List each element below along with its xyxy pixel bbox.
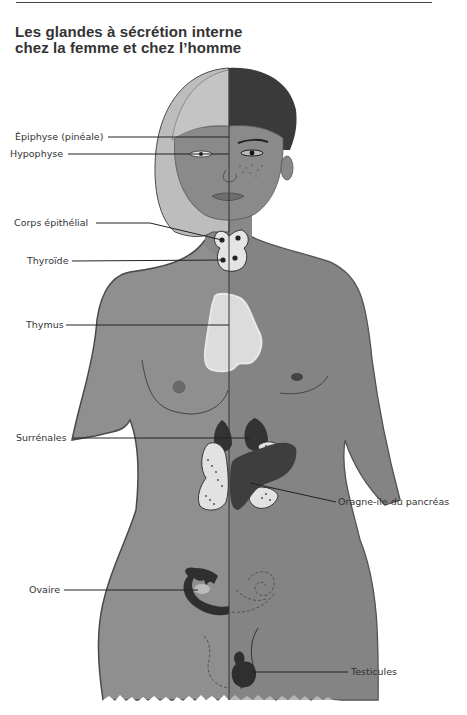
female-nipple: [173, 381, 185, 393]
male-nipple: [291, 373, 303, 381]
label-epiphyse: Épiphyse (pinéale): [15, 131, 103, 143]
parathyroid-dot: [232, 255, 237, 260]
male-ear: [281, 156, 293, 180]
thyroid-gland: [214, 230, 248, 271]
label-corps-epithelial: Corps épithélial: [14, 217, 88, 229]
label-surrenales: Surrénales: [16, 432, 67, 444]
label-hypophyse: Hypophyse: [10, 148, 63, 160]
label-testicules: Testicules: [351, 666, 397, 678]
label-thyroide: Thyroïde: [27, 255, 68, 267]
head: [155, 68, 297, 237]
male-pupil: [250, 151, 255, 156]
label-pancreas: Oragne-ile du pancréas: [338, 496, 449, 508]
ovary-gland: [194, 584, 210, 594]
parathyroid-dot: [235, 235, 240, 240]
label-ovaire: Ovaire: [29, 584, 60, 596]
anatomy-illustration: [0, 0, 467, 715]
label-thymus: Thymus: [26, 319, 64, 331]
